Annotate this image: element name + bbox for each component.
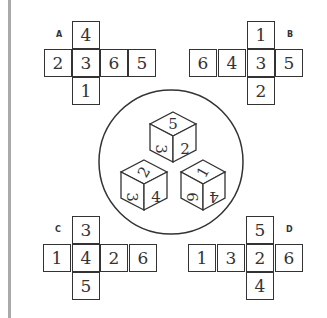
svg-text:3: 3 [123, 192, 141, 202]
svg-text:6: 6 [183, 192, 201, 202]
svg-text:2: 2 [180, 140, 190, 158]
svg-text:3: 3 [152, 144, 170, 154]
svg-text:4: 4 [151, 188, 161, 206]
die1-top: 5 [168, 115, 178, 133]
svg-text:4: 4 [209, 188, 219, 206]
dice-circle: 5 3 2 2 3 4 1 6 4 [0, 0, 327, 318]
